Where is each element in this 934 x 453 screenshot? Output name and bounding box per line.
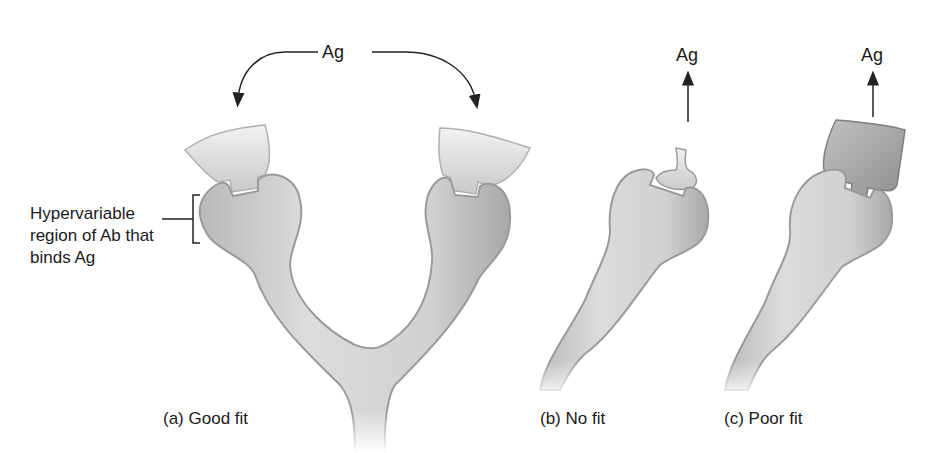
hypervariable-bracket (162, 195, 200, 243)
antigen-label-a: Ag (322, 42, 344, 62)
panel-c-poor-fit (715, 78, 905, 400)
antigen-label-c: Ag (861, 45, 883, 65)
panel-b-no-fit (530, 78, 708, 400)
caption-a: (a) Good fit (163, 409, 248, 429)
caption-c: (c) Poor fit (724, 409, 802, 429)
antigen-small-shape (656, 148, 697, 190)
hv-line-3: binds Ag (30, 247, 154, 269)
hypervariable-region-label: Hypervariable region of Ab that binds Ag (30, 203, 154, 269)
arrow-to-left-antigen-icon (238, 52, 318, 100)
antigen-left-shape (185, 125, 270, 192)
antibody-arm-b (540, 169, 708, 390)
hv-line-1: Hypervariable (30, 203, 154, 225)
antigen-label-b: Ag (676, 45, 698, 65)
antibody-arm-c (725, 170, 892, 390)
hv-line-2: region of Ab that (30, 225, 154, 247)
arrow-to-right-antigen-icon (372, 52, 476, 102)
caption-b: (b) No fit (540, 409, 605, 429)
panel-a-good-fit (162, 52, 530, 453)
